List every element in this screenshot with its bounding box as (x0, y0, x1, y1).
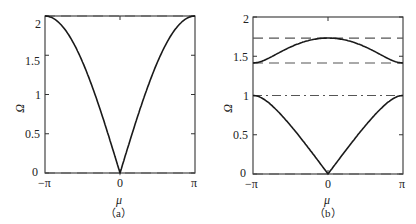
panel-b-xtick-pi: π (399, 177, 405, 192)
panel-a-ytick-05: 0.5 (25, 127, 40, 142)
panel-a (45, 16, 195, 173)
panel-b-ytick-2: 2 (243, 12, 249, 27)
panel-b (253, 17, 403, 174)
panel-a-ytick-1: 1 (35, 88, 41, 103)
plot-frame (45, 16, 195, 173)
panel-b-ytick-15: 1.5 (233, 50, 248, 65)
panel-b-ytick-1: 1 (243, 89, 249, 104)
acoustic-branch-curve (253, 96, 403, 175)
panel-a-ytick-15: 1.5 (25, 54, 40, 69)
panel-b-ytick-05: 0.5 (233, 128, 248, 143)
acoustic-branch-curve (45, 16, 195, 173)
panel-b-xtick-0: 0 (325, 177, 331, 192)
figure (0, 0, 416, 224)
panel-a-caption: （a） (105, 204, 132, 220)
panel-a-ytick-2: 2 (35, 17, 41, 32)
panel-a-ylabel: Ω (13, 104, 28, 113)
panel-b-ylabel: Ω (221, 104, 236, 113)
optical-branch-curve (253, 38, 403, 63)
panel-a-xtick-neg-pi: −π (38, 176, 51, 191)
panel-a-xtick-pi: π (191, 176, 197, 191)
panel-a-xtick-0: 0 (117, 176, 123, 191)
panel-b-caption: （b） (314, 204, 342, 220)
panel-b-xtick-neg-pi: −π (245, 177, 258, 192)
